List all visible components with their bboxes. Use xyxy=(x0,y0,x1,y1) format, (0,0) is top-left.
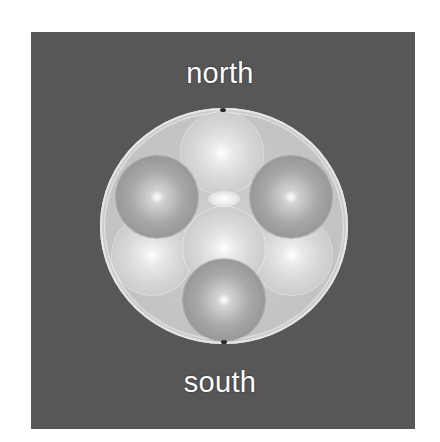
north-label: north xyxy=(0,57,440,89)
south-label: south xyxy=(0,366,440,398)
sphere-bottom xyxy=(183,259,265,341)
sphere-right xyxy=(250,156,332,238)
sphere-left xyxy=(116,156,198,238)
south-pole-marker xyxy=(221,340,227,344)
north-pole-marker xyxy=(220,108,226,112)
center-highlight xyxy=(208,191,240,207)
